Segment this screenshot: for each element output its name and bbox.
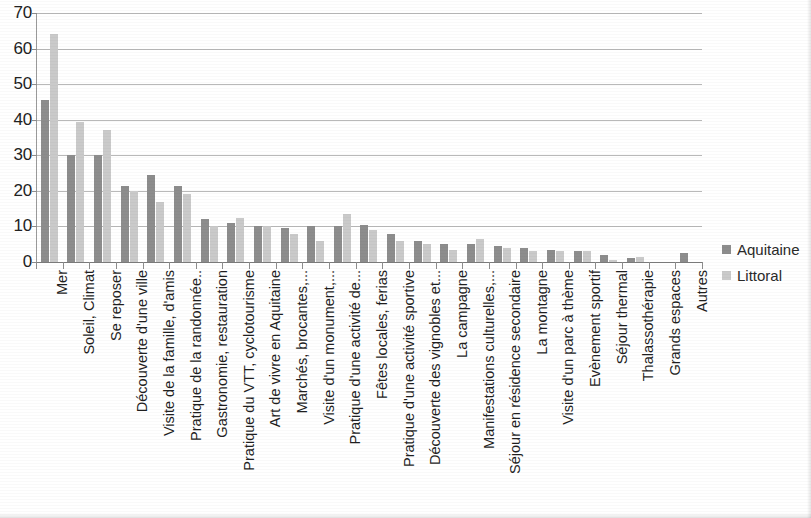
bar[interactable] [236, 218, 244, 262]
bar[interactable] [600, 255, 608, 262]
x-tick-mark [516, 262, 517, 269]
y-tick-label: 60 [2, 40, 32, 57]
bar-group [169, 13, 196, 262]
x-tick-mark [542, 262, 543, 269]
bar-group [649, 13, 676, 262]
bar[interactable] [290, 234, 298, 262]
bar[interactable] [574, 251, 582, 262]
bar[interactable] [476, 239, 484, 262]
bar-group [675, 13, 702, 262]
bar[interactable] [494, 246, 502, 262]
x-axis-tick-label: Manifestations culturelles,... [482, 270, 497, 449]
bar[interactable] [121, 186, 129, 262]
x-axis-tick-label: Marchés, brocantes,... [295, 270, 310, 413]
bar[interactable] [423, 244, 431, 262]
x-tick-mark [222, 262, 223, 269]
bar[interactable] [520, 248, 528, 262]
bar-group [63, 13, 90, 262]
bar[interactable] [369, 230, 377, 262]
x-tick-mark [595, 262, 596, 269]
bar[interactable] [94, 155, 102, 262]
bar-group [329, 13, 356, 262]
bar[interactable] [263, 226, 271, 262]
x-tick-mark [649, 262, 650, 269]
bar-group [622, 13, 649, 262]
legend-label: Littoral [737, 268, 782, 283]
x-tick-mark [675, 262, 676, 269]
bar[interactable] [201, 219, 209, 262]
x-axis-tick-label: Grands espaces [668, 270, 683, 376]
legend-swatch-icon [722, 271, 731, 280]
x-tick-mark [462, 262, 463, 269]
bar[interactable] [396, 241, 404, 262]
legend-label: Aquitaine [737, 242, 800, 257]
bar-group [462, 13, 489, 262]
legend-item-aquitaine[interactable]: Aquitaine [722, 236, 811, 262]
x-axis-tick-label: Mer [55, 270, 70, 295]
bar[interactable] [156, 202, 164, 262]
x-tick-mark [196, 262, 197, 269]
x-axis-tick-label: Visite d'un parc à thème [561, 270, 576, 425]
x-axis-tick-label: Visite d'un monument,... [322, 270, 337, 425]
bar[interactable] [147, 175, 155, 262]
x-axis-tick-label: Séjour en résidence secondaire [508, 270, 523, 474]
bar[interactable] [449, 250, 457, 262]
y-axis: 010203040506070 [0, 0, 32, 270]
bar[interactable] [41, 100, 49, 262]
bar-group [196, 13, 223, 262]
x-axis-tick-label: Pratique du VTT, cyclotourisme [242, 270, 257, 471]
y-tick-label: 20 [2, 182, 32, 199]
bar[interactable] [440, 244, 448, 262]
plot-area [36, 13, 702, 262]
bar[interactable] [174, 186, 182, 262]
bar[interactable] [130, 191, 138, 262]
x-axis-tick-label: Fêtes locales, ferias [375, 270, 390, 399]
legend-item-littoral[interactable]: Littoral [722, 262, 811, 288]
bar[interactable] [414, 241, 422, 262]
bar[interactable] [183, 194, 191, 262]
bar[interactable] [547, 250, 555, 262]
bar[interactable] [210, 226, 218, 262]
bar[interactable] [76, 122, 84, 263]
bar-group [116, 13, 143, 262]
x-tick-mark [116, 262, 117, 269]
legend: Aquitaine Littoral [722, 236, 811, 288]
bar[interactable] [50, 34, 58, 262]
bar[interactable] [281, 228, 289, 262]
bar[interactable] [467, 244, 475, 262]
bars-layer [36, 13, 702, 262]
x-tick-mark [143, 262, 144, 269]
bar-group [143, 13, 170, 262]
x-tick-mark [489, 262, 490, 269]
x-axis-labels: MerSoleil, ClimatSe reposerDécouverte d'… [36, 270, 702, 518]
x-axis-tick-label: Autres [695, 270, 710, 312]
bar[interactable] [360, 225, 368, 262]
bar[interactable] [680, 253, 688, 262]
bar[interactable] [307, 226, 315, 262]
x-tick-mark [409, 262, 410, 269]
bar[interactable] [583, 251, 591, 262]
x-axis-tick-label: Pratique d'une activité de... [348, 270, 363, 444]
bar[interactable] [316, 241, 324, 262]
x-axis-ticks [36, 262, 702, 270]
bar[interactable] [227, 223, 235, 262]
x-axis-tick-label: Séjour thermal [615, 270, 630, 364]
bar[interactable] [343, 214, 351, 262]
bar-chart: 010203040506070 MerSoleil, ClimatSe repo… [0, 0, 811, 518]
bar[interactable] [103, 130, 111, 262]
bar[interactable] [67, 155, 75, 262]
bar[interactable] [529, 251, 537, 262]
bar-group [542, 13, 569, 262]
bar-group [222, 13, 249, 262]
y-tick-label: 30 [2, 146, 32, 163]
bar[interactable] [387, 234, 395, 262]
bar[interactable] [556, 251, 564, 262]
x-axis-tick-label: Soleil, Climat [82, 270, 97, 355]
bar[interactable] [254, 226, 262, 262]
bar[interactable] [334, 226, 342, 262]
x-tick-mark [382, 262, 383, 269]
x-axis-tick-label: Art de vivre en Aquitaine [268, 270, 283, 427]
bar-group [249, 13, 276, 262]
bar[interactable] [503, 248, 511, 262]
x-axis-tick-label: La campagne [455, 270, 470, 358]
